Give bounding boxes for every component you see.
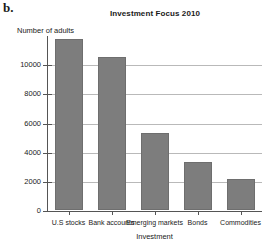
chart-title: Investment Focus 2010	[60, 9, 250, 18]
bar	[98, 57, 126, 210]
y-tick-mark	[43, 94, 52, 95]
y-tick-label: 2000	[24, 178, 41, 186]
bar	[55, 39, 83, 210]
y-tick-mark	[43, 182, 52, 183]
y-tick-label: 4000	[24, 149, 41, 157]
bar	[227, 179, 255, 210]
x-tick-label: Emerging markets	[126, 219, 183, 227]
y-tick-label: 10000	[20, 61, 41, 69]
figure-panel: b. Investment Focus 2010 Number of adult…	[0, 0, 268, 249]
x-tick-label: Bonds	[188, 219, 208, 227]
x-tick-mark	[198, 211, 199, 215]
x-tick-label: U.S stocks	[52, 219, 85, 227]
bar	[184, 162, 212, 210]
y-tick-label: 8000	[24, 90, 41, 98]
x-tick-label: Commodities	[220, 219, 261, 227]
plot-area: 0200040006000800010000 U.S stocksBank ac…	[47, 36, 262, 211]
bar	[141, 133, 169, 210]
y-tick-mark	[43, 211, 52, 212]
y-tick-mark	[43, 153, 52, 154]
y-tick-mark	[43, 65, 52, 66]
y-tick-label: 0	[37, 207, 41, 215]
y-axis-title: Number of adults	[17, 26, 74, 35]
y-tick-mark	[43, 124, 52, 125]
x-tick-mark	[69, 211, 70, 215]
x-axis-title: Investment	[47, 232, 262, 241]
x-tick-mark	[241, 211, 242, 215]
panel-letter-label: b.	[3, 1, 13, 14]
y-tick-label: 6000	[24, 120, 41, 128]
x-tick-mark	[112, 211, 113, 215]
x-tick-mark	[155, 211, 156, 215]
